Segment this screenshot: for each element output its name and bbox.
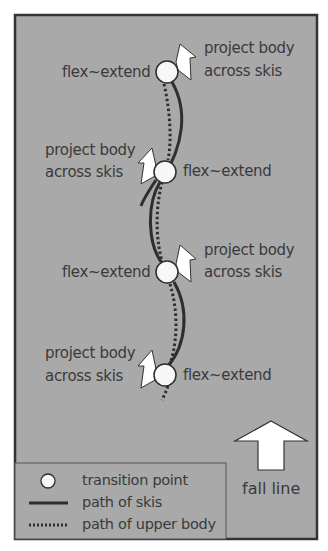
transition-1-action: flex~extend (62, 62, 151, 82)
transition-2-projection-line1: project body (45, 140, 135, 160)
transition-1-projection-line1: project body (204, 38, 294, 58)
transition-point-2 (154, 161, 176, 183)
transition-3-action: flex~extend (62, 262, 151, 282)
legend-label-transition-point: transition point (82, 471, 188, 489)
fall-line-label: fall line (242, 479, 300, 498)
transition-2-projection-line2: across skis (45, 162, 123, 182)
transition-point-3 (156, 261, 178, 283)
transition-3-projection-line2: across skis (204, 262, 282, 282)
transition-4-projection-line1: project body (45, 343, 135, 363)
transition-1-projection-line2: across skis (204, 61, 282, 81)
transition-2-action: flex~extend (183, 161, 272, 181)
transition-point-1 (156, 61, 178, 83)
legend-circle-icon (41, 474, 55, 488)
transition-point-4 (154, 364, 176, 386)
legend-label-path-of-skis: path of skis (82, 493, 162, 511)
transition-4-action: flex~extend (183, 365, 272, 385)
transition-3-projection-line1: project body (204, 240, 294, 260)
legend-label-path-of-upper-body: path of upper body (82, 515, 216, 533)
ski-turn-diagram: flex~extend project body across skis fle… (0, 0, 328, 551)
transition-4-projection-line2: across skis (45, 366, 123, 386)
